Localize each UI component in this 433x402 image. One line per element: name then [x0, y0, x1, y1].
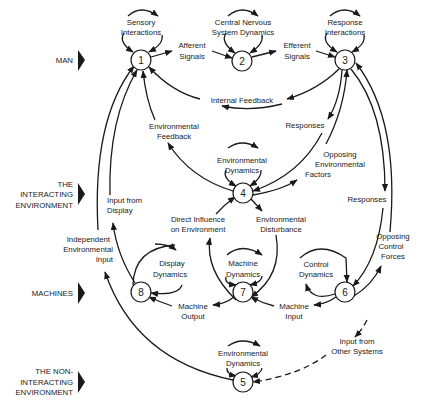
- label-line: Opposing: [323, 150, 356, 159]
- label-line: Forces: [381, 252, 405, 261]
- label-line: Control: [378, 242, 403, 251]
- level-non-interacting-environment: THE NON- INTERACTING ENVIRONMENT: [15, 367, 85, 397]
- label-line: Display: [159, 259, 185, 268]
- label-line: Environmental: [218, 349, 268, 358]
- edge-environmental-feedback: Environmental Feedback: [143, 71, 233, 191]
- label-line: Sensory: [127, 18, 156, 27]
- label-line: Factors: [305, 170, 331, 179]
- level-interacting-environment: THE INTERACTING ENVIRONMENT: [15, 180, 85, 210]
- node-7: 7: [233, 282, 253, 302]
- level-pointer-icon: [78, 183, 85, 205]
- level-label-line: ENVIRONMENT: [15, 201, 73, 210]
- label-line: Response: [327, 18, 362, 27]
- label-line: Disturbance: [260, 225, 302, 234]
- label-line: Environmental: [256, 215, 306, 224]
- label-line: System Dynamics: [212, 28, 274, 37]
- label-line: Signals: [179, 52, 205, 61]
- node-number: 1: [138, 55, 144, 66]
- edge-input-from-other-systems: Input from Other Systems: [253, 320, 383, 382]
- label-line: Machine: [228, 259, 257, 268]
- label-line: Input from: [107, 196, 142, 205]
- label-line: Responses: [285, 121, 324, 130]
- node-8: 8: [131, 282, 151, 302]
- label-line: Input: [96, 255, 114, 264]
- label-line: Environmental: [63, 245, 113, 254]
- node-number: 5: [240, 377, 246, 388]
- label-line: Responses: [347, 195, 386, 204]
- level-pointer-icon: [78, 50, 85, 71]
- node-1: 1: [131, 50, 151, 70]
- level-label-man: MAN: [56, 56, 73, 65]
- label-line: Efferent: [283, 41, 311, 50]
- edge-machine-input: Machine Input: [251, 297, 336, 321]
- edge-opposing-environmental-factors: Opposing Environmental Factors: [253, 70, 365, 195]
- label-line: Dynamics: [153, 270, 187, 279]
- node-number: 3: [342, 55, 348, 66]
- man-machine-environment-diagram: MAN THE INTERACTING ENVIRONMENT MACHINES…: [0, 0, 433, 402]
- node-number: 7: [240, 287, 246, 298]
- edge-direct-influence: Direct Influence on Environment: [171, 197, 236, 300]
- label-line: Control: [303, 260, 328, 269]
- level-label-line: THE: [57, 180, 73, 189]
- label-line: Environmental: [315, 160, 365, 169]
- self-loop-2: Central Nervous System Dynamics: [212, 10, 274, 53]
- label-line: Afferent: [178, 41, 206, 50]
- label-line: Signals: [284, 52, 310, 61]
- label-line: on Environment: [171, 225, 226, 234]
- edge-environmental-disturbance: Environmental Disturbance: [251, 199, 306, 297]
- label-line: Dynamics: [226, 359, 260, 368]
- edge-afferent-signals: Afferent Signals: [151, 41, 232, 61]
- node-6: 6: [335, 282, 355, 302]
- level-man: MAN: [56, 50, 85, 71]
- label-line: Output: [181, 312, 205, 321]
- label-line: Machine: [178, 302, 207, 311]
- label-line: Interactions: [121, 28, 161, 37]
- node-number: 2: [239, 56, 245, 67]
- level-pointer-icon: [78, 371, 85, 393]
- level-machines: MACHINES: [32, 282, 85, 304]
- edge-machine-output: Machine Output: [149, 297, 234, 321]
- level-label-line: INTERACTING: [20, 190, 73, 199]
- label-line: Other Systems: [331, 347, 383, 356]
- node-3: 3: [335, 50, 355, 70]
- self-loop-7: Machine Dynamics: [226, 249, 262, 286]
- node-2: 2: [232, 51, 252, 71]
- edge-internal-feedback: Internal Feedback: [149, 67, 340, 109]
- self-loop-4: Environmental Dynamics: [217, 143, 267, 186]
- label-line: Internal Feedback: [211, 96, 274, 105]
- label-line: Direct Influence: [171, 215, 225, 224]
- self-loop-3: Response Interactions: [325, 10, 365, 52]
- node-number: 4: [240, 188, 246, 199]
- label-line: Feedback: [157, 132, 191, 141]
- edge-efferent-signals: Efferent Signals: [252, 41, 335, 61]
- label-line: Dynamics: [225, 166, 259, 175]
- label-line: Environmental: [217, 156, 267, 165]
- level-label-line: INTERACTING: [20, 378, 73, 387]
- label-line: Display: [107, 206, 133, 215]
- label-line: Interactions: [325, 28, 365, 37]
- edge-opposing-control-forces: Opposing Control Forces: [354, 63, 410, 296]
- self-loop-1: Sensory Interactions: [121, 10, 162, 52]
- label-line: Opposing: [376, 232, 409, 241]
- label-line: Central Nervous: [215, 18, 271, 27]
- label-line: Input from: [339, 337, 374, 346]
- level-label-line: THE NON-: [35, 367, 73, 376]
- label-line: Dynamics: [226, 270, 260, 279]
- node-number: 6: [342, 287, 348, 298]
- level-label-machines: MACHINES: [32, 289, 73, 298]
- label-line: Environmental: [149, 122, 199, 131]
- label-line: Independent: [67, 235, 111, 244]
- label-line: Input: [285, 312, 303, 321]
- label-line: Dynamics: [299, 270, 333, 279]
- level-pointer-icon: [78, 282, 85, 304]
- node-5: 5: [233, 372, 253, 392]
- label-line: Machine: [279, 302, 308, 311]
- node-4: 4: [233, 183, 253, 203]
- level-label-line: ENVIRONMENT: [15, 388, 73, 397]
- node-number: 8: [138, 287, 144, 298]
